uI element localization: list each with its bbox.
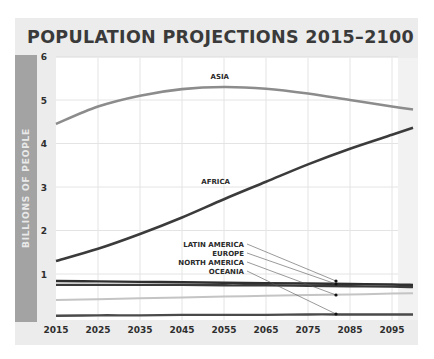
leader-dot bbox=[334, 293, 337, 296]
x-tick-label: 2025 bbox=[85, 325, 110, 335]
line-chart: 123456 201520252035204520552065207520852… bbox=[0, 0, 434, 359]
label-oceania: OCEANIA bbox=[209, 268, 245, 276]
x-tick-label: 2035 bbox=[127, 325, 152, 335]
x-tick-label: 2045 bbox=[169, 325, 194, 335]
x-tick-label: 2065 bbox=[253, 325, 278, 335]
x-tick-label: 2075 bbox=[295, 325, 320, 335]
x-tick-label: 2055 bbox=[211, 325, 236, 335]
x-tick-label: 2085 bbox=[337, 325, 362, 335]
x-tick-label: 2015 bbox=[43, 325, 68, 335]
x-axis-ticks: 201520252035204520552065207520852095 bbox=[43, 325, 404, 335]
y-tick-label: 5 bbox=[41, 96, 47, 106]
y-tick-label: 3 bbox=[41, 183, 47, 193]
y-axis-ticks: 123456 bbox=[41, 52, 47, 280]
label-latin-america: LATIN AMERICA bbox=[183, 241, 244, 249]
leader-dot bbox=[334, 279, 337, 282]
label-africa: AFRICA bbox=[201, 178, 230, 186]
series-line-oceania bbox=[56, 314, 413, 315]
y-tick-label: 1 bbox=[41, 270, 47, 280]
leader-dot bbox=[334, 312, 337, 315]
y-tick-label: 6 bbox=[41, 52, 47, 62]
x-tick-label: 2095 bbox=[379, 325, 404, 335]
leader-dot bbox=[334, 282, 337, 285]
y-tick-label: 4 bbox=[41, 139, 47, 149]
label-europe: EUROPE bbox=[212, 250, 244, 258]
plot-right-strip bbox=[398, 58, 418, 320]
y-tick-label: 2 bbox=[41, 226, 47, 236]
label-asia: ASIA bbox=[211, 73, 230, 81]
label-north-america: NORTH AMERICA bbox=[178, 259, 244, 267]
